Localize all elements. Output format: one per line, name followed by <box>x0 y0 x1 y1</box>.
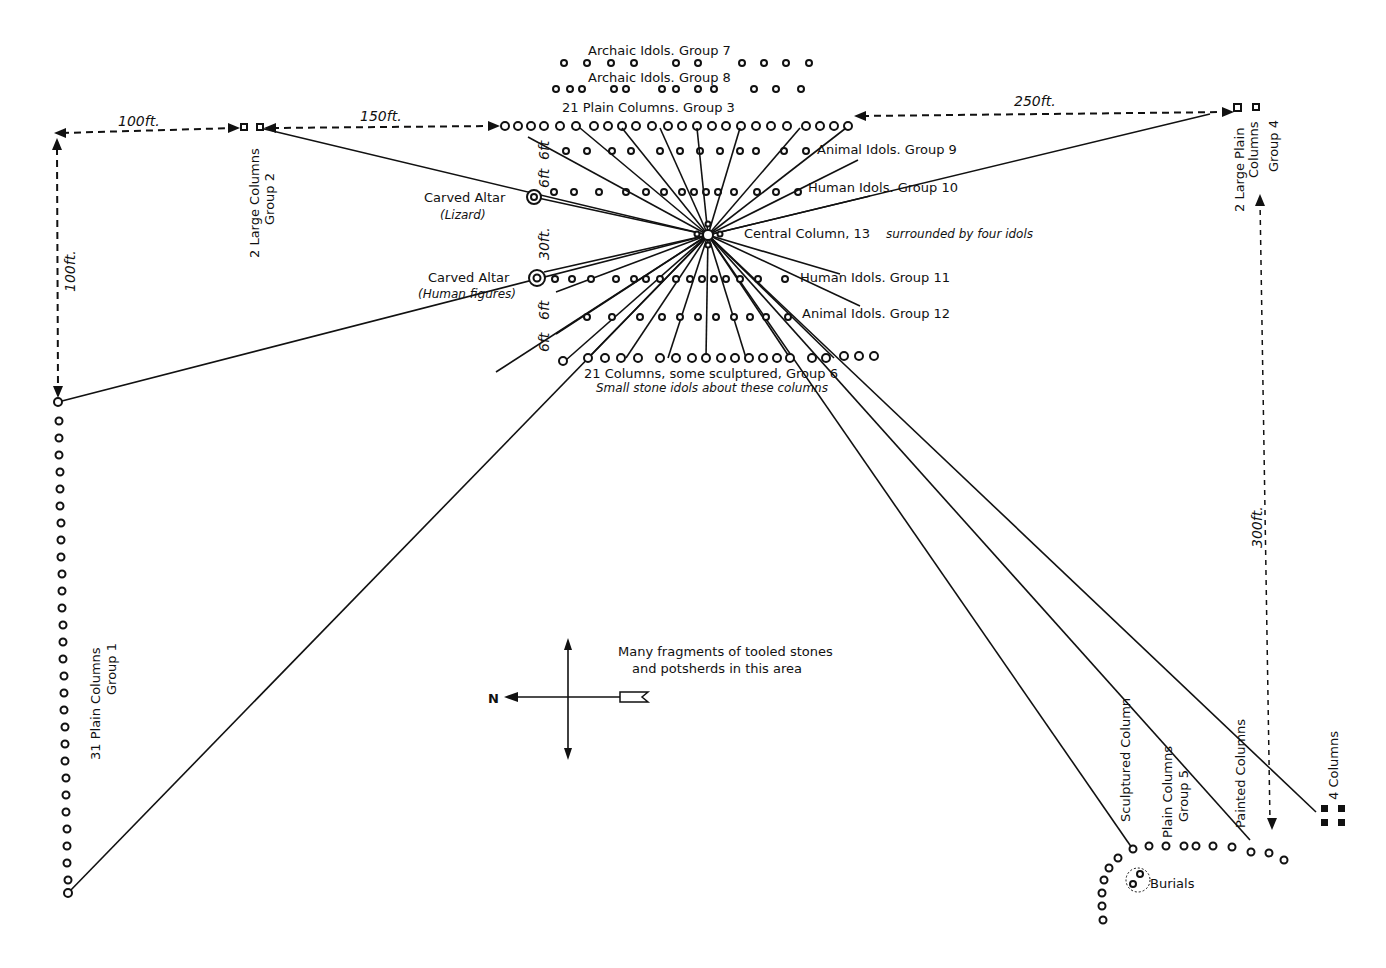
altar-human-label: Carved Altar <box>428 270 510 285</box>
site-plan-diagram: Archaic Idols. Group 7 Archaic Idols. Gr… <box>0 0 1386 968</box>
arrowhead-icon <box>488 121 500 131</box>
group12-label: Animal Idols. Group 12 <box>802 306 950 321</box>
group6-label: 21 Columns, some sculptured, Group 6 <box>584 366 838 381</box>
group1-columns <box>54 398 72 897</box>
group7-idols <box>561 60 812 66</box>
dim-100ft-top: 100ft. <box>118 113 160 129</box>
arrowhead-icon <box>264 123 276 133</box>
arrowhead-icon <box>1267 818 1277 830</box>
group9-idols <box>563 148 809 154</box>
burials-marker <box>1126 868 1150 892</box>
group4-label-line2: Columns <box>1246 121 1261 178</box>
arrowhead-icon <box>54 128 66 138</box>
group1-label-line2: Group 1 <box>104 643 119 695</box>
group4-label-line3: Group 4 <box>1266 120 1281 172</box>
central-column-note: surrounded by four idols <box>886 227 1033 241</box>
arrowhead-icon <box>52 138 62 150</box>
arrowhead-icon <box>228 123 240 133</box>
dim-250ft: 250ft. <box>1014 93 1056 109</box>
north-label: N <box>488 691 499 706</box>
dim-line-250ft <box>862 112 1228 116</box>
group11-label: Human Idols. Group 11 <box>800 270 950 285</box>
group8-idols <box>553 86 804 92</box>
group5-label-line2: Group 5 <box>1176 770 1191 822</box>
four-columns <box>1321 805 1345 826</box>
arrowhead-icon <box>1255 194 1265 206</box>
arrowhead-icon <box>53 386 63 398</box>
altar-lizard-sub: (Lizard) <box>440 208 486 222</box>
dim-6ft-b: 6ft <box>536 168 552 188</box>
four-columns-label: 4 Columns <box>1326 731 1341 800</box>
group2-label-line1: 2 Large Columns <box>247 148 262 258</box>
altar-lizard <box>527 190 541 204</box>
fragments-note-line2: and potsherds in this area <box>632 661 802 676</box>
sculptured-column-label: Sculptured Column <box>1118 698 1133 822</box>
central-column-label: Central Column, 13 <box>744 226 870 241</box>
dim-line-100ft-left <box>57 148 58 390</box>
dim-150ft: 150ft. <box>360 108 402 124</box>
group1-label-line1: 31 Plain Columns <box>88 647 103 760</box>
group7-label: Archaic Idols. Group 7 <box>588 43 731 58</box>
dim-6ft-d: 6ft <box>536 332 552 352</box>
group2-columns <box>241 124 263 130</box>
group2-label-line2: Group 2 <box>262 173 277 225</box>
fragments-note-line1: Many fragments of tooled stones <box>618 644 833 659</box>
altar-human-sub: (Human figures) <box>418 287 516 301</box>
group3-label: 21 Plain Columns. Group 3 <box>562 100 735 115</box>
group5-label-line1: Plain Columns <box>1160 746 1175 838</box>
group4-columns <box>1234 104 1259 111</box>
group9-label: Animal Idols. Group 9 <box>817 142 957 157</box>
dim-6ft-a: 6ft <box>536 140 552 160</box>
dim-30ft: 30ft. <box>536 227 552 260</box>
group6-note: Small stone idols about these columns <box>596 381 828 395</box>
altar-human-figures <box>529 270 545 286</box>
dim-line-150ft <box>272 126 492 128</box>
dim-100ft-left: 100ft. <box>62 250 78 292</box>
burials-label: Burials <box>1150 876 1195 891</box>
group4-label-line1: 2 Large Plain <box>1232 128 1247 212</box>
altar-lizard-label: Carved Altar <box>424 190 506 205</box>
arrowhead-icon <box>1222 107 1234 117</box>
dim-6ft-c: 6ft <box>536 300 552 320</box>
arrowhead-icon <box>854 111 866 121</box>
painted-columns-label: Painted Columns <box>1233 719 1248 828</box>
group8-label: Archaic Idols. Group 8 <box>588 70 731 85</box>
dim-300ft: 300ft. <box>1249 506 1265 548</box>
group12-idols <box>584 314 791 320</box>
